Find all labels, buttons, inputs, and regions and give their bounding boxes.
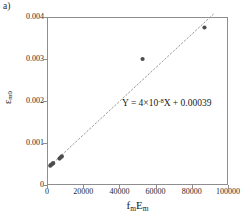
y-axis-label-subscript: m0 bbox=[6, 91, 13, 100]
data-point bbox=[51, 161, 55, 165]
equation-prefix: Y = 4×10 bbox=[122, 98, 158, 108]
y-tick-label: 0.003 bbox=[4, 55, 44, 63]
y-tick-label: 0.001 bbox=[4, 139, 44, 147]
x-axis-ticks: 020000400006000080000100000 bbox=[0, 186, 243, 200]
x-tick-mark bbox=[47, 185, 48, 189]
x-tick-mark bbox=[83, 185, 84, 189]
data-point bbox=[140, 57, 144, 61]
y-tick-mark bbox=[43, 17, 47, 18]
x-axis-label-e: E bbox=[136, 199, 143, 211]
x-axis-label: fmEm bbox=[47, 199, 228, 212]
x-tick-mark bbox=[119, 185, 120, 189]
figure-panel-a: a) 00.0010.0020.0030.004 020000400006000… bbox=[0, 0, 243, 218]
x-tick-mark bbox=[156, 185, 157, 189]
data-point bbox=[60, 154, 64, 158]
x-tick-mark bbox=[192, 185, 193, 189]
trendline-path bbox=[51, 14, 214, 165]
data-point bbox=[202, 25, 206, 29]
equation-suffix: X + 0.00039 bbox=[164, 98, 212, 108]
y-axis-label: εm0 bbox=[2, 70, 13, 126]
trendline bbox=[51, 14, 214, 165]
y-tick-label: 0.004 bbox=[4, 13, 44, 21]
y-tick-mark bbox=[43, 101, 47, 102]
regression-equation: Y = 4×10-8X + 0.00039 bbox=[122, 97, 211, 109]
y-axis-label-symbol: ε bbox=[2, 100, 13, 104]
y-tick-mark bbox=[43, 59, 47, 60]
x-tick-mark bbox=[228, 185, 229, 189]
y-tick-mark bbox=[43, 143, 47, 144]
x-axis-label-e-sub: m bbox=[143, 204, 149, 213]
